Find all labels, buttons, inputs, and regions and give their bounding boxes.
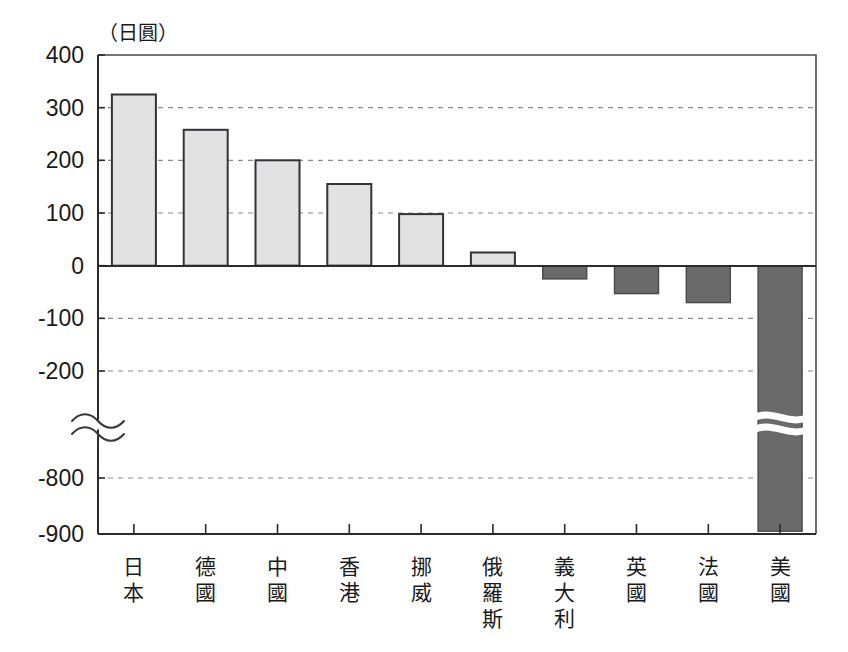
bar-美國 bbox=[758, 266, 802, 532]
y-tick-label: -200 bbox=[38, 358, 84, 384]
y-tick-label: 0 bbox=[71, 253, 84, 279]
bar-德國 bbox=[184, 130, 228, 266]
y-tick-label: 400 bbox=[46, 42, 84, 68]
category-label: 俄羅斯 bbox=[482, 555, 503, 631]
chart-canvas: （日圓） 4003002001000-100-200-800-900 日本德國中… bbox=[0, 0, 848, 652]
bar-中國 bbox=[256, 160, 300, 265]
y-axis-unit-label: （日圓） bbox=[98, 21, 178, 45]
bar-英國 bbox=[615, 266, 659, 294]
y-tick-label: -900 bbox=[38, 521, 84, 547]
bar-俄羅斯 bbox=[471, 253, 515, 266]
bar-法國 bbox=[686, 266, 730, 303]
y-tick-label: 100 bbox=[46, 200, 84, 226]
y-tick-label: -800 bbox=[38, 465, 84, 491]
bar-挪威 bbox=[399, 214, 443, 266]
bar-日本 bbox=[112, 95, 156, 266]
y-tick-label: 200 bbox=[46, 147, 84, 173]
bar-chart-figure: （日圓） 4003002001000-100-200-800-900 日本德國中… bbox=[0, 0, 848, 652]
category-label: 義大利 bbox=[554, 555, 575, 631]
bar-香港 bbox=[327, 184, 371, 266]
bar-義大利 bbox=[543, 266, 587, 279]
y-tick-label: 300 bbox=[46, 95, 84, 121]
y-tick-label: -100 bbox=[38, 305, 84, 331]
